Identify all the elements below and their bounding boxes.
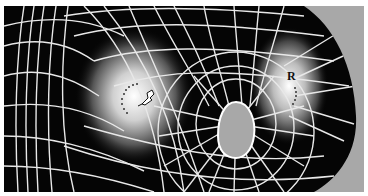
surface-body (4, 6, 364, 192)
mesh-rendering (4, 6, 364, 192)
figure-frame: R (4, 6, 364, 192)
oval-opening (218, 102, 254, 158)
marker-label-r: R (287, 70, 296, 82)
